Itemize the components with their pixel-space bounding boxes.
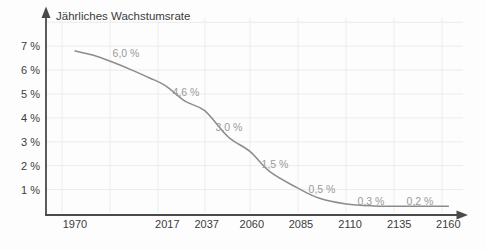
- axes: [42, 7, 469, 220]
- x-tick-label: 1970: [63, 218, 87, 230]
- curve-value-label: 1,5 %: [262, 158, 289, 170]
- curve-value-label: 4,6 %: [173, 86, 200, 98]
- y-tick-label: 3 %: [21, 136, 40, 148]
- curve-value-label: 3,0 %: [216, 121, 243, 133]
- curve-value-label: 6,0 %: [113, 47, 140, 59]
- y-tick-label: 5 %: [21, 88, 40, 100]
- growth-rate-chart: 7 %6 %5 %4 %3 %2 %1 %1970201720372060208…: [0, 0, 485, 250]
- y-tick-label: 2 %: [21, 160, 40, 172]
- y-tick-label: 4 %: [21, 112, 40, 124]
- curve-value-label: 0,5 %: [309, 183, 336, 195]
- curve-value-label: 0,3 %: [358, 195, 385, 207]
- x-tick-label: 2135: [387, 218, 411, 230]
- y-tick-label: 6 %: [21, 64, 40, 76]
- curve-value-label: 0,2 %: [407, 195, 434, 207]
- x-tick-label: 2110: [338, 218, 362, 230]
- gridlines: [47, 18, 463, 213]
- x-tick-label: 2017: [155, 218, 179, 230]
- x-tick-label: 2160: [436, 218, 460, 230]
- y-axis-arrow-icon: [42, 7, 51, 19]
- chart-canvas: 7 %6 %5 %4 %3 %2 %1 %1970201720372060208…: [0, 0, 485, 250]
- x-tick-label: 2037: [194, 218, 218, 230]
- chart-title: Jährliches Wachstumsrate: [56, 10, 190, 22]
- growth-rate-curve: [75, 51, 448, 206]
- y-tick-label: 1 %: [21, 184, 40, 196]
- x-tick-label: 2060: [240, 218, 264, 230]
- y-tick-label: 7 %: [21, 40, 40, 52]
- x-tick-label: 2085: [289, 218, 313, 230]
- generated-chart: 7 %6 %5 %4 %3 %2 %1 %1970201720372060208…: [21, 7, 468, 230]
